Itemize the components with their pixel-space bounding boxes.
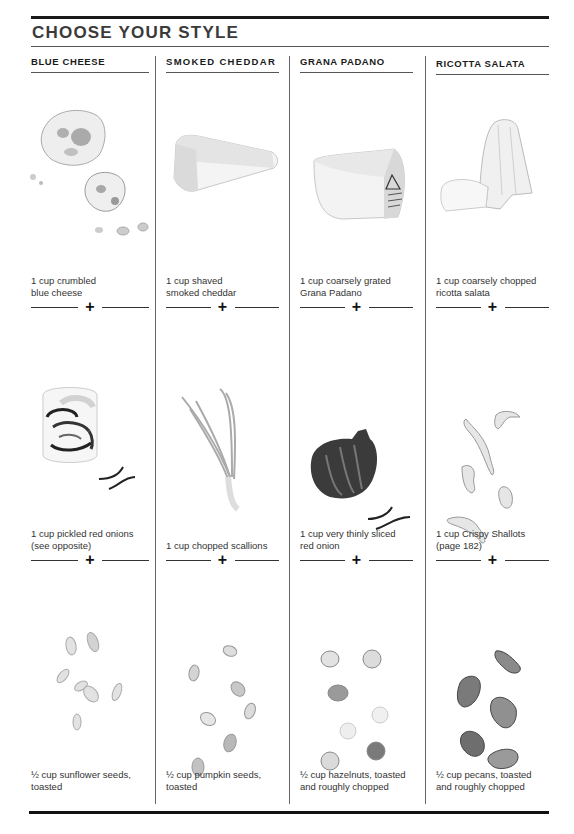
red-onion-icon — [306, 425, 416, 535]
plus-icon: + — [211, 301, 235, 313]
ingredient-line: ½ cup pecans, toasted — [436, 769, 532, 781]
ingredient-line: 1 cup coarsely grated — [300, 275, 391, 287]
top-rule — [31, 16, 549, 19]
ingredient-line: toasted — [31, 781, 131, 793]
grana-padano-wedge-icon — [312, 147, 412, 227]
plus-separator: + — [436, 554, 549, 566]
cheese-ingredient: 1 cup shaved smoked cheddar — [166, 275, 236, 299]
ingredient-line: 1 cup shaved — [166, 275, 236, 287]
ingredient-line: and roughly chopped — [300, 781, 406, 793]
nut-ingredient: ½ cup pecans, toasted and roughly choppe… — [436, 769, 532, 793]
ingredient-line: red onion — [300, 540, 396, 552]
column-heading: BLUE CHEESE — [31, 56, 105, 67]
column-grana-padano: GRANA PADANO 1 cup coarsely grated Grana… — [290, 47, 425, 805]
pumpkin-seeds-icon — [178, 643, 268, 783]
plus-separator: + — [300, 554, 413, 566]
plus-separator: + — [166, 301, 279, 313]
ingredient-line: 1 cup Crispy Shallots — [436, 528, 525, 540]
column-heading: SMOKED CHEDDAR — [166, 56, 276, 67]
cheese-ingredient: 1 cup coarsely grated Grana Padano — [300, 275, 391, 299]
ricotta-salata-icon — [436, 115, 546, 225]
nut-ingredient: ½ cup hazelnuts, toasted and roughly cho… — [300, 769, 406, 793]
sunflower-seeds-icon — [51, 622, 141, 742]
nut-ingredient: ½ cup pumpkin seeds, toasted — [166, 769, 261, 793]
plus-icon: + — [345, 301, 369, 313]
bottom-rule — [29, 811, 549, 814]
scallions-icon — [168, 387, 278, 517]
cheese-ingredient: 1 cup coarsely chopped ricotta salata — [436, 275, 536, 299]
plus-separator: + — [31, 301, 149, 313]
plus-icon: + — [481, 301, 505, 313]
ingredient-line: Grana Padano — [300, 287, 391, 299]
ingredient-line: 1 cup coarsely chopped — [436, 275, 536, 287]
pecans-icon — [452, 647, 552, 777]
ingredient-line: ricotta salata — [436, 287, 536, 299]
ingredient-line: ½ cup pumpkin seeds, — [166, 769, 261, 781]
heading-rule — [300, 72, 413, 73]
ingredient-line: ½ cup hazelnuts, toasted — [300, 769, 406, 781]
plus-separator: + — [31, 554, 149, 566]
plus-icon: + — [345, 554, 369, 566]
pickled-red-onions-jar-icon — [31, 367, 141, 497]
cheese-ingredient: 1 cup crumbled blue cheese — [31, 275, 96, 299]
ingredient-line: 1 cup pickled red onions — [31, 528, 133, 540]
ingredient-line: 1 cup crumbled — [31, 275, 96, 287]
page-title: CHOOSE YOUR STYLE — [32, 23, 239, 43]
cheddar-wedge-icon — [168, 132, 283, 202]
plus-icon: + — [78, 301, 102, 313]
plus-separator: + — [436, 301, 549, 313]
plus-icon: + — [481, 554, 505, 566]
plus-separator: + — [166, 554, 279, 566]
nut-ingredient: ½ cup sunflower seeds, toasted — [31, 769, 131, 793]
column-smoked-cheddar: SMOKED CHEDDAR 1 cup shaved smoked chedd… — [156, 47, 289, 805]
ingredient-line: 1 cup chopped scallions — [166, 540, 267, 552]
plus-separator: + — [300, 301, 413, 313]
heading-rule — [31, 72, 149, 73]
ingredient-line: 1 cup very thinly sliced — [300, 528, 396, 540]
ingredient-line: ½ cup sunflower seeds, — [31, 769, 131, 781]
crispy-shallots-icon — [446, 407, 546, 547]
column-heading: GRANA PADANO — [300, 56, 385, 67]
column-heading: RICOTTA SALATA — [436, 58, 525, 69]
heading-rule — [436, 74, 549, 75]
plus-icon: + — [78, 554, 102, 566]
column-ricotta-salata: RICOTTA SALATA 1 cup coarsely chopped ri… — [426, 47, 549, 805]
ingredient-line: and roughly chopped — [436, 781, 532, 793]
plus-icon: + — [211, 554, 235, 566]
hazelnuts-icon — [318, 647, 408, 777]
onion-ingredient: 1 cup pickled red onions (see opposite) — [31, 528, 133, 552]
onion-ingredient: 1 cup Crispy Shallots (page 182) — [436, 528, 525, 552]
crumbled-blue-cheese-icon — [21, 97, 151, 247]
ingredient-line: toasted — [166, 781, 261, 793]
onion-ingredient: 1 cup chopped scallions — [166, 540, 267, 552]
ingredient-line: (see opposite) — [31, 540, 133, 552]
heading-rule — [166, 72, 279, 73]
ingredient-line: (page 182) — [436, 540, 525, 552]
column-blue-cheese: BLUE CHEESE 1 cup crumbled blue cheese + — [31, 47, 155, 805]
onion-ingredient: 1 cup very thinly sliced red onion — [300, 528, 396, 552]
